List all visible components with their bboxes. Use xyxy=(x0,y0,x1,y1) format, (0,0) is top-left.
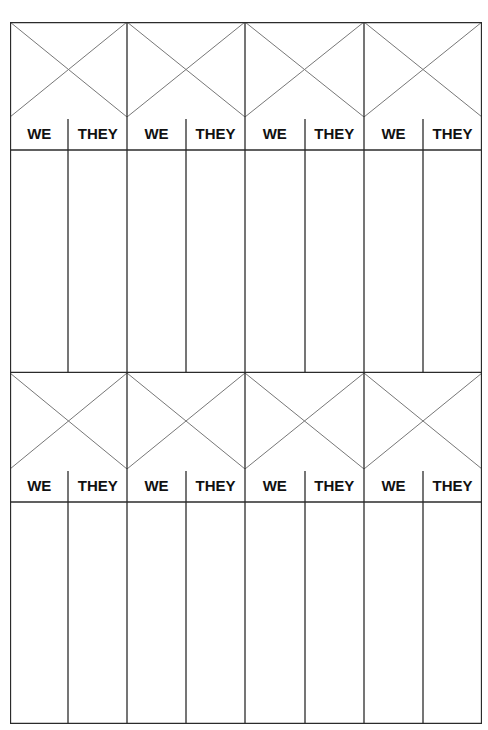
we-header: WE xyxy=(127,117,186,150)
they-header: THEY xyxy=(69,117,128,150)
cross-icon xyxy=(10,22,127,117)
they-header: THEY xyxy=(423,469,482,502)
score-cell-they-7[interactable] xyxy=(305,502,364,724)
score-cell-they-1[interactable] xyxy=(68,150,127,373)
score-cell-we-3[interactable] xyxy=(245,150,305,373)
game-name-box[interactable] xyxy=(364,22,482,117)
cross-icon xyxy=(127,22,245,117)
score-block-2: WE THEY WE THEY WE THEY xyxy=(10,373,482,724)
we-header: WE xyxy=(364,469,423,502)
game-name-box[interactable] xyxy=(245,22,364,117)
game-name-box[interactable] xyxy=(10,373,127,469)
they-header: THEY xyxy=(305,469,365,502)
score-cell-we-6[interactable] xyxy=(127,502,186,724)
we-header: WE xyxy=(10,469,69,502)
they-header: THEY xyxy=(186,117,245,150)
game-name-box[interactable] xyxy=(245,373,364,469)
we-header: WE xyxy=(245,117,305,150)
cross-icon xyxy=(127,373,245,469)
score-cell-we-1[interactable] xyxy=(10,150,68,373)
scoresheet: WE THEY WE THEY WE THEY xyxy=(10,22,482,724)
cross-icon xyxy=(245,22,364,117)
they-header: THEY xyxy=(305,117,365,150)
score-cell-we-5[interactable] xyxy=(10,502,68,724)
game-name-box[interactable] xyxy=(127,373,245,469)
score-cell-we-8[interactable] xyxy=(364,502,423,724)
score-cell-they-8[interactable] xyxy=(423,502,482,724)
score-cell-we-4[interactable] xyxy=(364,150,423,373)
score-cell-they-6[interactable] xyxy=(186,502,245,724)
cross-icon xyxy=(364,373,482,469)
score-cell-they-4[interactable] xyxy=(423,150,482,373)
score-block-1: WE THEY WE THEY WE THEY xyxy=(10,22,482,373)
score-cell-they-5[interactable] xyxy=(68,502,127,724)
score-cell-we-7[interactable] xyxy=(245,502,305,724)
we-header: WE xyxy=(10,117,69,150)
we-header: WE xyxy=(364,117,423,150)
we-header: WE xyxy=(127,469,186,502)
we-header: WE xyxy=(245,469,305,502)
game-name-box[interactable] xyxy=(364,373,482,469)
they-header: THEY xyxy=(423,117,482,150)
game-name-box[interactable] xyxy=(10,22,127,117)
cross-icon xyxy=(10,373,127,469)
game-name-box[interactable] xyxy=(127,22,245,117)
they-header: THEY xyxy=(69,469,128,502)
they-header: THEY xyxy=(186,469,245,502)
score-cell-they-3[interactable] xyxy=(305,150,364,373)
cross-icon xyxy=(245,373,364,469)
score-cell-we-2[interactable] xyxy=(127,150,186,373)
score-cell-they-2[interactable] xyxy=(186,150,245,373)
cross-icon xyxy=(364,22,482,117)
